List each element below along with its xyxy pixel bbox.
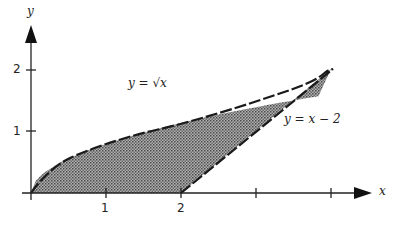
shaded-region	[31, 69, 331, 193]
x-axis-arrow-icon	[354, 187, 372, 199]
x-tick-label-2: 2	[177, 201, 185, 215]
y-tick-label-2: 2	[13, 62, 21, 76]
x-axis-label: x	[379, 184, 386, 198]
y-axis-label: y	[27, 4, 34, 18]
x-tick-label-1: 1	[101, 201, 109, 215]
curve-sqrt-label: y = √x	[128, 76, 167, 90]
curve-line-label: y = x − 2	[284, 112, 341, 126]
y-axis-arrow-icon	[25, 25, 37, 43]
y-tick-label-1: 1	[13, 124, 21, 138]
